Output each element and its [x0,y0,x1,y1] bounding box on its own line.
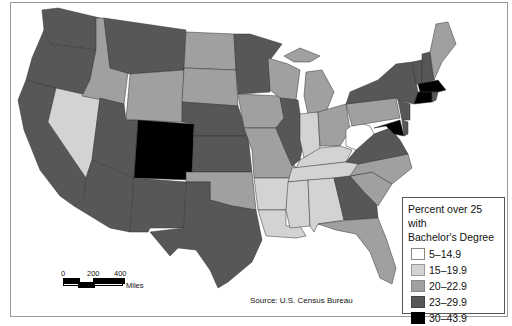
legend-label: 30–43.9 [429,312,467,324]
scale-tick-0: 0 [61,269,65,278]
state-mt [104,18,186,74]
state-nd [184,32,236,70]
state-ri [432,92,438,102]
legend-title-line1: Percent over 25 with [408,202,499,230]
legend-item: 23–29.9 [411,294,499,310]
state-mi-up [284,48,320,62]
legend-swatch [411,312,425,324]
legend-swatch [411,280,425,292]
state-sd [182,68,238,106]
state-nm [130,178,186,232]
legend-label: 23–29.9 [429,296,467,308]
scale-unit: Miles [126,281,144,290]
legend-item: 15–19.9 [411,262,499,278]
state-ia [238,94,284,128]
state-ks [192,136,252,172]
state-ar [254,178,290,210]
state-wi [268,58,300,100]
scale-tick-400: 400 [114,269,127,278]
state-fl [318,218,396,284]
state-co [134,120,194,180]
legend-title-line2: Bachelor's Degree [408,230,499,244]
state-ny [346,62,418,104]
legend-item: 20–22.9 [411,278,499,294]
source-credit: Source: U.S. Census Bureau [250,296,353,305]
legend: Percent over 25 with Bachelor's Degree 5… [402,197,505,314]
legend-swatch [411,248,425,260]
scale-tick-200: 200 [87,269,100,278]
scale-outline [63,282,123,286]
state-me [430,22,456,80]
legend-label: 5–14.9 [429,248,461,260]
legend-label: 20–22.9 [429,280,467,292]
state-wa [42,8,100,50]
state-ms [286,180,310,228]
legend-item: 30–43.9 [411,310,499,326]
legend-swatch [411,264,425,276]
legend-label: 15–19.9 [429,264,467,276]
state-mi [304,70,334,114]
legend-item: 5–14.9 [411,246,499,262]
state-wy [126,70,184,122]
legend-swatch [411,296,425,308]
